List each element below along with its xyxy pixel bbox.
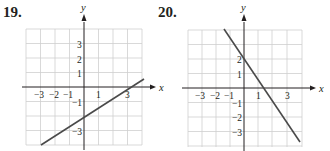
x-axis-label: x [158,82,164,93]
svg-text:−3: −3 [72,127,82,137]
charts-canvas: x y −3 −2 −1 1 3 3 2 1 −1 −3 [0,0,330,151]
svg-text:−2: −2 [210,91,220,101]
svg-text:1: 1 [237,70,242,80]
svg-text:−2: −2 [232,113,242,123]
svg-text:1: 1 [77,69,82,79]
svg-text:−1: −1 [72,98,82,108]
chart-19: x y −3 −2 −1 1 3 3 2 1 −1 −3 [22,2,164,150]
x-axis-label: x [318,83,324,94]
svg-text:−1: −1 [232,99,242,109]
y-axis-arrow-icon [242,14,247,21]
chart-20: x y −3 −2 −1 1 3 2 1 −1 −2 −3 [182,2,324,151]
svg-text:−3: −3 [195,91,205,101]
y-axis-label: y [80,2,86,13]
svg-text:−3: −3 [232,128,242,138]
svg-text:−3: −3 [34,90,44,100]
plotted-line-19 [41,79,144,145]
y-axis-label: y [240,2,246,13]
plotted-line-20 [224,29,300,142]
svg-text:1: 1 [256,91,261,101]
svg-text:3: 3 [77,40,82,50]
svg-text:2: 2 [77,55,82,65]
svg-text:3: 3 [285,91,290,101]
x-axis-arrow-icon [150,85,156,90]
svg-text:2: 2 [237,55,242,65]
y-axis-arrow-icon [82,14,87,21]
svg-text:1: 1 [96,90,101,100]
x-axis-arrow-icon [310,86,316,91]
x-tick-labels-20: −3 −2 −1 1 3 [195,91,290,101]
svg-text:−2: −2 [49,90,59,100]
